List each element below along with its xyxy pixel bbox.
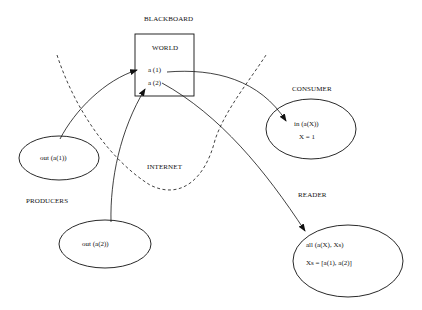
- world-label: WORLD: [152, 44, 178, 52]
- consumer-node: [266, 99, 356, 159]
- arrow-out-a2: [111, 89, 145, 222]
- producers-label: PRODUCERS: [26, 197, 68, 205]
- blackboard-label: BLACKBOARD: [144, 15, 193, 23]
- world-tuple-a1: a (1): [148, 66, 161, 74]
- reader-result: Xs = [a(1), a(2)]: [306, 259, 352, 267]
- consumer-result: X = 1: [299, 133, 315, 141]
- producer1-op: out (a(1)): [40, 154, 67, 162]
- consumer-op: in (a(X)): [294, 120, 319, 128]
- producer2-op: out (a(2)): [82, 240, 109, 248]
- world-tuple-a2: a (2): [148, 79, 161, 87]
- reader-label: READER: [298, 191, 327, 199]
- reader-op: all (a(X), Xs): [306, 241, 344, 249]
- internet-label: INTERNET: [147, 163, 182, 171]
- arrow-out-a1: [60, 70, 137, 139]
- consumer-label: CONSUMER: [292, 85, 332, 93]
